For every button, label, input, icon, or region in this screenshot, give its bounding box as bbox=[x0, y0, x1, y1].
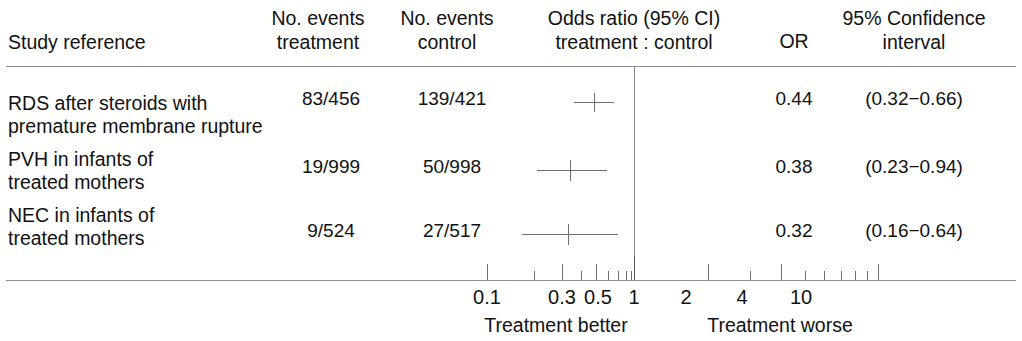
effect-estimate-marker bbox=[568, 224, 569, 245]
study-label-line2: treated mothers bbox=[8, 227, 145, 250]
axis-tick-label-1: 1 bbox=[628, 286, 639, 309]
study-label-line2: treated mothers bbox=[8, 171, 145, 194]
axis-annotation-treatment-worse: Treatment worse bbox=[707, 314, 853, 337]
column-header-plot-line1: Odds ratio (95% CI) bbox=[548, 7, 720, 30]
axis-tick-minor bbox=[631, 271, 632, 280]
confidence-interval-value: (0.32−0.66) bbox=[865, 88, 963, 109]
axis-tick-major bbox=[562, 264, 563, 280]
study-label-line1: PVH in infants of bbox=[8, 148, 153, 171]
effect-estimate-marker bbox=[594, 93, 595, 112]
null-effect-reference-line bbox=[634, 66, 635, 280]
events-control-value: 50/998 bbox=[423, 156, 481, 177]
axis-tick-label-4: 4 bbox=[736, 286, 747, 309]
axis-tick-minor bbox=[534, 271, 535, 280]
axis-tick-label-0-1: 0.1 bbox=[473, 286, 501, 309]
column-header-or: OR bbox=[779, 31, 808, 53]
axis-tick-null bbox=[634, 256, 635, 280]
forest-plot-figure: Study reference No. events treatment No.… bbox=[0, 0, 1022, 341]
axis-tick-label-0-5: 0.5 bbox=[584, 286, 612, 309]
column-header-ci-line2: interval bbox=[883, 31, 946, 54]
confidence-interval-value: (0.23−0.94) bbox=[865, 156, 963, 177]
axis-tick-minor bbox=[608, 271, 609, 280]
axis-tick-major bbox=[781, 264, 782, 280]
axis-tick-label-10: 10 bbox=[790, 286, 812, 309]
column-header-events-control-line1: No. events bbox=[400, 7, 493, 30]
axis-tick-minor bbox=[805, 271, 806, 280]
confidence-interval-value: (0.16−0.64) bbox=[865, 220, 963, 241]
column-header-events-control-line2: control bbox=[418, 31, 477, 54]
axis-tick-minor bbox=[618, 271, 619, 280]
confidence-interval-whisker bbox=[537, 170, 607, 171]
odds-ratio-value: 0.32 bbox=[776, 220, 813, 241]
events-treatment-value: 19/999 bbox=[302, 156, 360, 177]
study-label-line1: NEC in infants of bbox=[8, 204, 154, 227]
column-header-events-treatment-line1: No. events bbox=[271, 7, 364, 30]
axis-tick-label-0-3: 0.3 bbox=[548, 286, 576, 309]
axis-tick-minor bbox=[841, 271, 842, 280]
odds-ratio-value: 0.44 bbox=[776, 88, 813, 109]
axis-baseline-rule bbox=[6, 280, 1016, 281]
column-header-plot-line2: treatment : control bbox=[555, 31, 712, 54]
axis-tick-major bbox=[487, 264, 488, 280]
axis-tick-minor bbox=[750, 271, 751, 280]
axis-tick-minor bbox=[824, 271, 825, 280]
axis-tick-minor bbox=[855, 271, 856, 280]
axis-tick-label-2: 2 bbox=[680, 286, 691, 309]
study-label-line2: premature membrane rupture bbox=[8, 115, 263, 138]
axis-annotation-treatment-better: Treatment better bbox=[484, 314, 627, 337]
column-header-study-reference: Study reference bbox=[8, 32, 146, 54]
axis-tick-major bbox=[596, 264, 597, 280]
events-treatment-value: 9/524 bbox=[307, 220, 355, 241]
axis-tick-minor bbox=[626, 271, 627, 280]
column-header-ci-line1: 95% Confidence bbox=[842, 7, 985, 30]
confidence-interval-whisker bbox=[522, 234, 618, 235]
events-control-value: 139/421 bbox=[418, 88, 487, 109]
events-control-value: 27/517 bbox=[423, 220, 481, 241]
header-divider-rule bbox=[6, 66, 1016, 67]
axis-tick-major bbox=[708, 264, 709, 280]
column-header-events-treatment-line2: treatment bbox=[277, 31, 359, 54]
axis-tick-minor bbox=[867, 271, 868, 280]
odds-ratio-value: 0.38 bbox=[776, 156, 813, 177]
axis-tick-minor bbox=[581, 271, 582, 280]
axis-tick-major bbox=[878, 264, 879, 280]
events-treatment-value: 83/456 bbox=[302, 88, 360, 109]
effect-estimate-marker bbox=[570, 160, 571, 181]
study-label-line1: RDS after steroids with bbox=[8, 92, 207, 115]
